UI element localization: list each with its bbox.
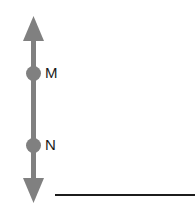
arrow-shaft [31, 39, 36, 180]
point-m-label: M [45, 64, 58, 81]
point-n-label: N [45, 136, 56, 153]
diagram-canvas: M N [0, 0, 195, 214]
diagram-svg: M N [0, 0, 195, 214]
point-m-dot [26, 66, 41, 81]
point-n-dot [26, 138, 41, 153]
